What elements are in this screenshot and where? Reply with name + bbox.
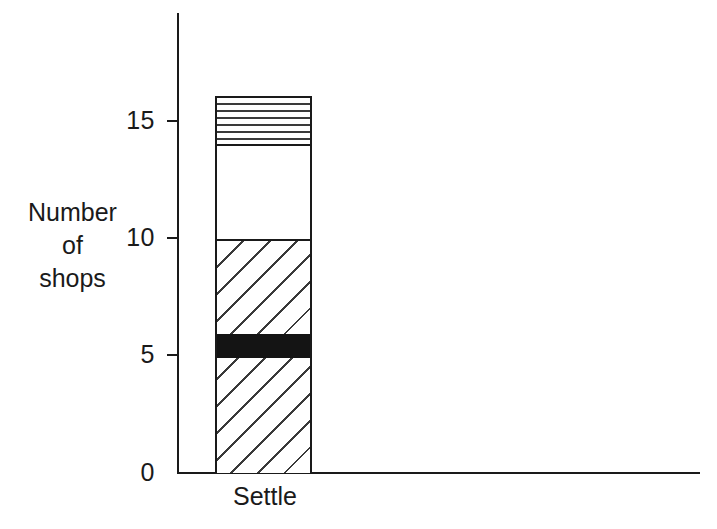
y-tick-5: [167, 354, 178, 356]
y-tick-label-15: 15: [95, 108, 155, 133]
x-axis-category-label-settle: Settle: [205, 482, 325, 510]
bar-segment-2-solid-black: [215, 334, 312, 358]
y-tick-label-0: 0: [95, 460, 155, 485]
bar-segment-4-blank: [215, 144, 312, 239]
bar-segment-1-diagonal-hatch: [215, 358, 312, 473]
y-tick-15: [167, 120, 178, 122]
y-axis-line: [177, 13, 179, 474]
bar-settle: [215, 96, 312, 473]
y-tick-10: [167, 237, 178, 239]
y-axis-title-line-3: shops: [10, 262, 135, 295]
bar-segment-3-diagonal-hatch: [215, 239, 312, 334]
stacked-bar-chart: Number of shops 15 10 5 0 Settle: [0, 0, 717, 529]
bar-segment-5-horizontal-hatch: [215, 96, 312, 144]
y-tick-label-5: 5: [95, 342, 155, 367]
y-tick-label-10: 10: [95, 225, 155, 250]
